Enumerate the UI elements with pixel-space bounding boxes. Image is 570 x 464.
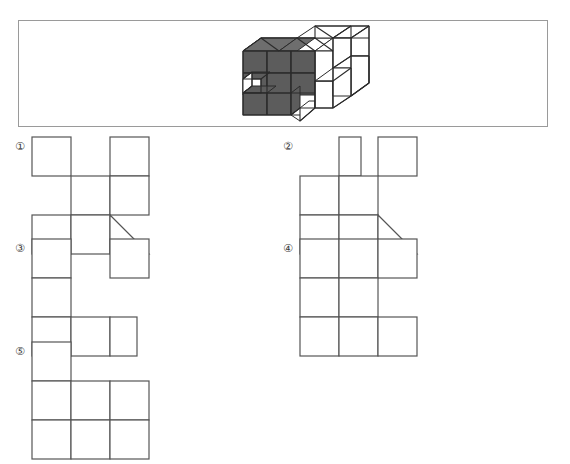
option-3-label: ③ xyxy=(12,243,28,259)
option-4-label: ④ xyxy=(280,243,296,259)
question-figure-frame xyxy=(18,20,548,127)
3d-cube-solid-figure xyxy=(19,21,549,128)
option-1-label: ① xyxy=(12,141,28,157)
option-5-label: ⑤ xyxy=(12,346,28,362)
option-4-net[interactable] xyxy=(300,239,440,364)
option-5-net[interactable] xyxy=(32,342,172,464)
option-2-label: ② xyxy=(280,141,296,157)
options-area: ① ② xyxy=(0,127,570,454)
